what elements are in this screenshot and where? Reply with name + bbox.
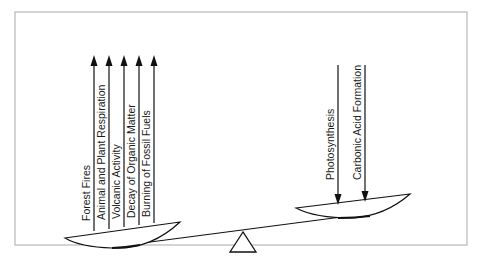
label-respiration: Animal and Plant Respiration bbox=[95, 84, 107, 220]
label-decay: Decay of Organic Matter bbox=[125, 104, 137, 218]
label-photosynthesis: Photosynthesis bbox=[324, 109, 336, 180]
carbon-balance-diagram: Forest Fires Animal and Plant Respiratio… bbox=[0, 0, 481, 276]
label-volcanic: Volcanic Activity bbox=[110, 144, 122, 219]
label-forest-fires: Forest Fires bbox=[80, 165, 92, 221]
label-fossil-fuels: Burning of Fossil Fuels bbox=[140, 110, 152, 217]
label-carbonic-acid: Carbonic Acid Formation bbox=[351, 65, 363, 180]
